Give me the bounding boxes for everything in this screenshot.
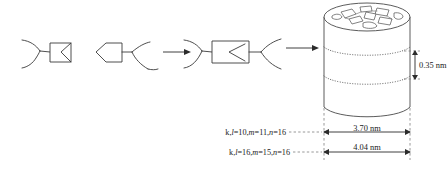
pentagon-head — [96, 43, 122, 62]
fork-upper-branch — [132, 42, 150, 52]
index-inner-m-value: =11, — [255, 128, 270, 137]
linker-bond — [40, 51, 50, 52]
index-label-outer: k,l=16,m=15,n=16 — [229, 148, 290, 157]
tail-upper-branch — [22, 40, 40, 51]
outer-diameter-label: 4.04 nm — [353, 143, 381, 152]
molecule-step-1 — [22, 40, 71, 68]
stack-period-label: 0.35 nm — [419, 61, 447, 70]
index-outer-n-value: =16 — [277, 148, 290, 157]
cylinder-body — [324, 17, 410, 117]
fork-lower-tip — [148, 69, 158, 70]
index-outer-m-value: =15, — [258, 148, 273, 157]
top-fragment-3 — [360, 6, 372, 12]
molecule-step-2 — [96, 42, 158, 70]
reaction-arrow-second-head — [312, 45, 319, 51]
figure-root: 0.35 nm 3.70 nm 4.04 nm k,l=10,m — [0, 0, 448, 172]
arrow-1 — [163, 49, 191, 55]
index-label-inner: k,l=10,m=11,n=16 — [225, 128, 286, 137]
figure-canvas: 0.35 nm 3.70 nm 4.04 nm k,l=10,m — [0, 0, 448, 172]
index-inner-n-value: =16 — [273, 128, 286, 137]
tail-lower-branch — [22, 51, 40, 68]
columnar-nanostructure — [324, 3, 410, 117]
inner-diameter-label: 3.70 nm — [353, 124, 381, 133]
arrow-2 — [286, 45, 319, 51]
left-fork-linker — [202, 51, 212, 52]
reaction-arrow-first-head — [184, 49, 191, 55]
molecule-step-3 — [184, 39, 281, 69]
dimension-outer-diameter: 4.04 nm — [323, 143, 411, 155]
index-leader-lines — [289, 132, 322, 152]
dimension-inner-diameter: 3.70 nm — [323, 124, 411, 135]
right-fork-upper — [261, 39, 281, 52]
top-fragment-7 — [332, 14, 342, 19]
fork-lower-branch — [132, 52, 148, 69]
index-inner-l-value: =10, — [234, 128, 249, 137]
right-fork-lower — [261, 52, 281, 69]
index-outer-l-value: =16, — [237, 148, 252, 157]
stack-period-arrow-head-up — [412, 50, 418, 55]
stack-period-arrow-head-down — [412, 75, 418, 80]
left-fork-upper — [184, 40, 202, 51]
